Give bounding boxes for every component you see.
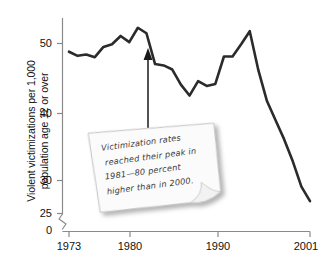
- y-tick-label-0: 0: [26, 224, 52, 236]
- x-tick-label-1973: 1973: [46, 240, 92, 252]
- annotation-arrow: [144, 48, 153, 128]
- x-tick-label-1990: 1990: [195, 240, 241, 252]
- x-tick-label-2001: 2001: [283, 240, 323, 252]
- y-tick-marks: [57, 44, 63, 214]
- annotation-note: Victimization rates reached their peak i…: [87, 116, 223, 218]
- x-tick-label-1980: 1980: [107, 240, 153, 252]
- annotation-note-text: Victimization rates reached their peak i…: [100, 127, 215, 199]
- chart-figure: Violent victimizations per 1,000 populat…: [0, 0, 323, 263]
- y-tick-label-40: 40: [26, 107, 52, 119]
- y-axis-break-symbol: [59, 214, 66, 229]
- y-tick-label-25: 25: [26, 207, 52, 219]
- y-tick-label-30: 30: [26, 174, 52, 186]
- y-tick-label-50: 50: [26, 37, 52, 49]
- x-tick-marks: [69, 232, 310, 238]
